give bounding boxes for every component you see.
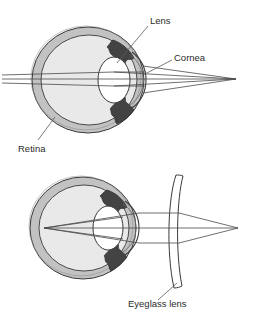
ray-far-upper-bottom (179, 213, 238, 228)
label-lens: Lens (150, 15, 171, 26)
ray-far-lower-bottom (179, 228, 238, 243)
label-eyeglass-lens: Eyeglass lens (128, 298, 187, 309)
eye-optics-figure: Lens Cornea Retina (0, 0, 258, 318)
label-retina: Retina (18, 143, 46, 154)
ray-edge-lower-top (143, 79, 236, 93)
label-cornea: Cornea (174, 52, 206, 63)
panel-corrected-eye: Eyeglass lens (29, 175, 238, 309)
crystalline-lens-top (98, 57, 130, 103)
panel-uncorrected-eye: Lens Cornea Retina (2, 15, 236, 154)
eye-diagram-page: Lens Cornea Retina (0, 0, 258, 318)
eyeglass-lens (169, 175, 183, 288)
leader-cornea (143, 60, 172, 75)
leader-retina (38, 117, 55, 140)
